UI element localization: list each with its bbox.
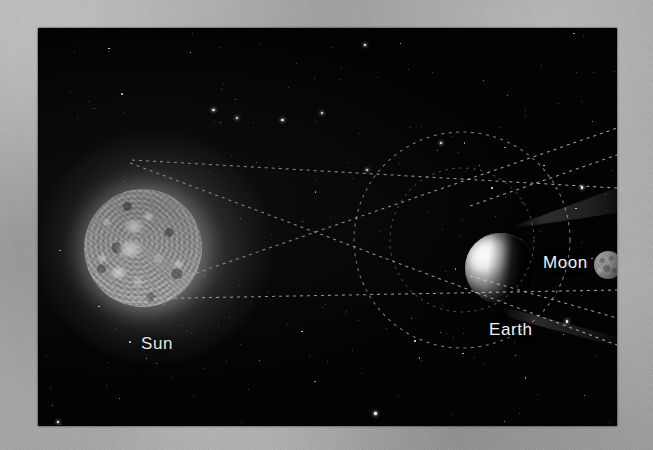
sun-top-parallel	[132, 160, 617, 188]
star	[315, 121, 316, 122]
star	[411, 318, 412, 319]
star	[108, 362, 109, 363]
star	[340, 79, 341, 80]
star	[106, 385, 107, 386]
star	[388, 247, 389, 248]
star	[322, 307, 323, 308]
star	[331, 47, 332, 48]
star	[281, 119, 283, 121]
star	[59, 250, 61, 252]
star	[77, 118, 78, 119]
star	[115, 328, 116, 329]
star	[400, 43, 402, 45]
star	[386, 328, 387, 329]
star	[50, 387, 51, 388]
star	[421, 360, 422, 361]
star	[614, 71, 615, 72]
star	[422, 270, 423, 271]
star	[522, 202, 523, 203]
star	[445, 271, 446, 272]
star	[609, 422, 610, 423]
star	[558, 103, 559, 104]
star	[398, 395, 399, 396]
star	[267, 292, 268, 293]
star	[271, 234, 272, 235]
star	[591, 258, 592, 259]
star	[438, 292, 439, 293]
star	[605, 194, 606, 195]
star	[172, 377, 173, 378]
star	[248, 389, 249, 390]
star	[442, 229, 443, 230]
star	[584, 395, 585, 396]
star	[593, 72, 594, 73]
star	[240, 218, 241, 219]
star	[315, 179, 316, 180]
star	[440, 142, 442, 144]
star	[108, 51, 109, 52]
star	[239, 285, 240, 286]
star	[525, 115, 526, 116]
star	[459, 236, 460, 237]
star	[226, 361, 227, 362]
star	[223, 84, 224, 85]
star	[504, 147, 505, 148]
star	[364, 44, 366, 46]
sun-bottom-parallel	[132, 290, 617, 299]
star	[129, 341, 131, 343]
star	[327, 361, 328, 362]
star	[352, 350, 353, 351]
star	[540, 231, 541, 232]
star	[474, 357, 475, 358]
star	[515, 355, 516, 356]
star	[74, 51, 75, 52]
star	[220, 122, 221, 123]
star	[446, 333, 447, 334]
star	[287, 324, 288, 325]
star	[452, 136, 453, 137]
star	[358, 320, 359, 321]
star	[581, 186, 583, 188]
star	[57, 421, 59, 423]
star	[60, 424, 61, 425]
star	[576, 72, 577, 73]
earth-limb-shading	[465, 233, 535, 303]
star	[442, 305, 443, 306]
star	[359, 133, 360, 134]
star	[543, 165, 545, 167]
star	[410, 127, 411, 128]
star	[321, 112, 323, 114]
star	[315, 172, 316, 173]
star	[465, 171, 466, 172]
star	[70, 91, 71, 92]
star	[231, 155, 232, 156]
label-earth: Earth	[489, 320, 533, 340]
star	[203, 368, 204, 369]
star	[52, 405, 53, 406]
star	[507, 95, 508, 96]
star	[296, 63, 297, 64]
star	[541, 65, 542, 66]
star	[346, 311, 347, 312]
star	[325, 304, 326, 305]
star	[352, 178, 353, 179]
star	[181, 325, 182, 326]
star	[94, 108, 95, 109]
star	[190, 52, 192, 54]
star	[356, 219, 357, 220]
star	[191, 333, 192, 334]
star	[592, 121, 593, 122]
star	[555, 188, 556, 189]
star	[581, 242, 582, 243]
star	[341, 68, 342, 69]
star	[462, 353, 464, 355]
star	[427, 212, 428, 213]
star	[519, 413, 520, 414]
star	[581, 101, 582, 102]
star	[302, 221, 303, 222]
star	[421, 293, 422, 294]
star	[537, 394, 538, 395]
earth-sphere	[465, 233, 535, 303]
star	[241, 422, 242, 423]
star	[414, 340, 416, 342]
